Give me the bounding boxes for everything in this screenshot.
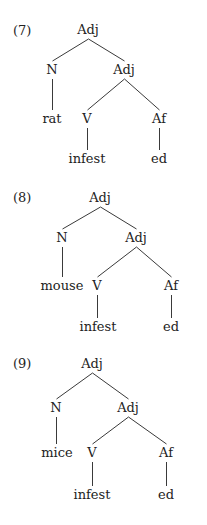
tree-node-af: Af [152, 112, 166, 126]
tree-3-edges [57, 373, 167, 486]
tree-node-n: N [46, 63, 57, 77]
tree-node-adj2: Adj [125, 231, 147, 245]
tree-node-root: Adj [81, 357, 103, 371]
tree-node-n: N [56, 231, 67, 245]
tree-node-noun_word: rat [42, 112, 61, 126]
tree-node-verb_word: infest [80, 320, 117, 334]
edge-adj2-af [137, 247, 172, 277]
tree-node-v: V [92, 279, 101, 293]
edge-root-adj2 [93, 373, 129, 399]
tree-node-verb_word: infest [69, 152, 106, 166]
edge-adj2-af [129, 417, 167, 444]
tree-diagrams-canvas [0, 0, 207, 525]
tree-node-af: Af [159, 446, 173, 460]
edge-adj2-v [98, 247, 137, 277]
tree-node-verb_word: infest [74, 488, 111, 502]
tree-node-noun_word: mouse [41, 279, 84, 293]
tree-node-root: Adj [89, 191, 111, 205]
example-number: (8) [13, 191, 31, 205]
tree-node-adj2: Adj [117, 401, 139, 415]
tree-node-n: N [50, 401, 61, 415]
edge-root-adj2 [101, 207, 137, 229]
example-number: (9) [13, 357, 31, 371]
edge-root-adj2 [89, 39, 125, 61]
tree-node-affix_word: ed [158, 488, 174, 502]
tree-node-adj2: Adj [113, 63, 135, 77]
tree-node-affix_word: ed [163, 320, 179, 334]
tree-1-edges [53, 39, 160, 150]
tree-node-noun_word: mice [41, 446, 72, 460]
tree-node-af: Af [164, 279, 178, 293]
tree-node-v: V [87, 446, 96, 460]
edge-adj2-af [125, 79, 160, 110]
edge-adj2-v [88, 79, 125, 110]
tree-node-affix_word: ed [151, 152, 167, 166]
tree-2-edges [63, 207, 172, 318]
edge-adj2-v [93, 417, 129, 444]
edge-root-n [57, 373, 93, 399]
edge-root-n [63, 207, 101, 229]
edge-root-n [53, 39, 89, 61]
example-number: (7) [13, 24, 31, 38]
tree-node-v: V [82, 112, 91, 126]
tree-node-root: Adj [77, 23, 99, 37]
